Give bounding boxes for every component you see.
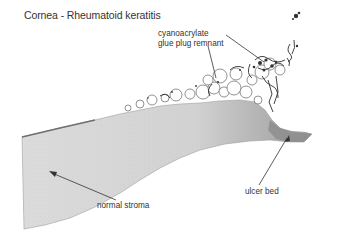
glue-label-line-1: cyanoacrylate <box>158 29 224 39</box>
glue-plug-label: cyanoacrylate glue plug remnant <box>158 29 224 49</box>
glue-label-line-2: glue plug remnant <box>158 39 224 49</box>
ulcer-leader-line <box>259 138 287 185</box>
ulcer-bed-label: ulcer bed <box>245 187 279 197</box>
glue-leader-line-1 <box>226 35 264 62</box>
normal-stroma-label: normal stroma <box>97 201 149 211</box>
corneal-stroma <box>22 100 312 229</box>
glue-leader-line-2 <box>208 46 216 78</box>
